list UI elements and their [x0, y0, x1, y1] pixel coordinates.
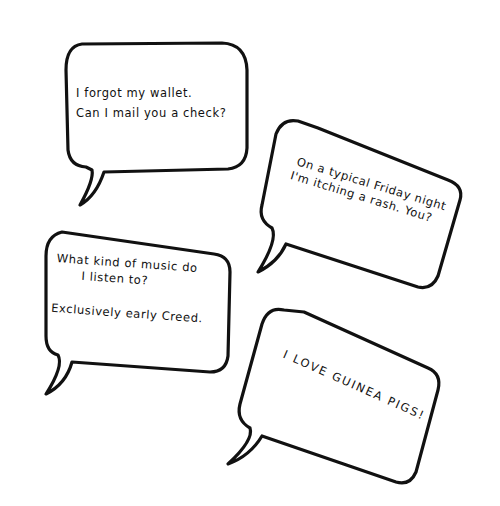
speech-bubble-music: What kind of music do I listen to? Exclu… — [46, 232, 230, 394]
speech-bubble-wallet: I forgot my wallet. Can I mail you a che… — [66, 43, 247, 205]
speech-bubble-friday-night: On a typical Friday night I'm itching a … — [258, 121, 461, 288]
speech-bubble-guinea-pigs: I LOVE GUINEA PIGS! — [228, 309, 439, 483]
bubble-wallet-line-1: I forgot my wallet. — [76, 86, 192, 100]
speech-bubbles-illustration: I forgot my wallet. Can I mail you a che… — [0, 0, 500, 506]
bubble-wallet-line-2: Can I mail you a check? — [76, 106, 226, 120]
